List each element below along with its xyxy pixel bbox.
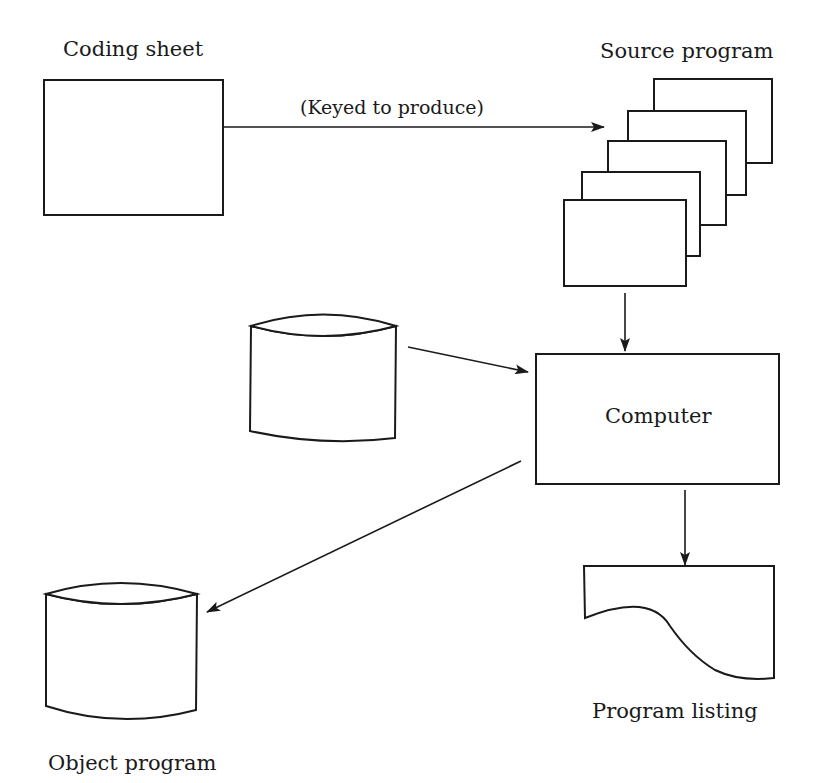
edge-coding-to-source: (Keyed to produce) (223, 96, 604, 127)
computer-node: Computer (536, 354, 779, 484)
edge-label-keyed: (Keyed to produce) (300, 96, 484, 118)
program-listing-label: Program listing (592, 699, 758, 723)
edge-computer-to-object (207, 461, 521, 612)
coding-sheet-node: Coding sheet (44, 37, 223, 215)
input-disk-node (250, 315, 396, 442)
object-disk-body (46, 594, 197, 719)
object-program-label: Object program (48, 751, 217, 775)
program-listing-node: Program listing (584, 566, 774, 723)
program-compilation-diagram: Coding sheet (Keyed to produce) Source p… (0, 0, 815, 783)
program-listing-document (584, 566, 774, 679)
edge-disk-to-computer (408, 347, 528, 372)
source-card-1 (564, 200, 686, 286)
computer-label: Computer (605, 404, 712, 428)
coding-sheet-label: Coding sheet (63, 37, 204, 61)
coding-sheet-rectangle (44, 80, 223, 215)
source-program-label: Source program (600, 39, 774, 63)
object-program-node: Object program (46, 583, 217, 775)
source-program-node: Source program (564, 39, 774, 286)
input-disk-body (250, 326, 396, 441)
